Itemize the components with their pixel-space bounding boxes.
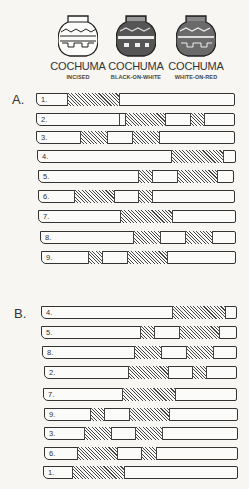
seriation-bar: 9. bbox=[44, 408, 238, 421]
hatched-segment bbox=[132, 131, 160, 144]
hatched-segment bbox=[122, 388, 176, 401]
pot-title-white-on-red: COCHUMA bbox=[161, 60, 231, 72]
seriation-bar: 5. bbox=[41, 326, 237, 339]
bar-number: 5. bbox=[43, 172, 49, 181]
bar-number: 3. bbox=[41, 133, 47, 142]
bar-number: 7. bbox=[48, 390, 54, 399]
hatched-segment bbox=[127, 251, 168, 264]
hatched-segment bbox=[190, 113, 205, 126]
pot-white-on-red-icon bbox=[176, 14, 216, 58]
hatched-segment bbox=[140, 326, 155, 339]
seriation-bar: 2. bbox=[36, 113, 235, 126]
hatched-segment bbox=[185, 231, 213, 244]
hatched-segment bbox=[67, 93, 120, 106]
bar-number: 9. bbox=[46, 253, 52, 262]
bar-number: 2. bbox=[49, 368, 55, 377]
hatched-segment bbox=[125, 113, 166, 126]
bar-number: 2. bbox=[41, 115, 47, 124]
pot-subtitle-white-on-red: WHITE-ON-RED bbox=[161, 74, 231, 80]
hatched-segment bbox=[133, 231, 161, 244]
hatched-segment bbox=[192, 366, 207, 379]
seriation-bar: 3. bbox=[44, 427, 238, 440]
hatched-segment bbox=[128, 366, 169, 379]
seriation-bar: 8. bbox=[42, 346, 237, 359]
seriation-bar: 7. bbox=[43, 388, 237, 401]
hatched-segment bbox=[84, 427, 112, 440]
bar-number: 1. bbox=[48, 468, 54, 477]
hatched-segment bbox=[80, 131, 108, 144]
bar-number: 8. bbox=[47, 348, 53, 357]
bar-number: 9. bbox=[49, 410, 55, 419]
hatched-segment bbox=[72, 466, 125, 479]
bar-number: 7. bbox=[43, 212, 49, 221]
hatched-segment bbox=[138, 190, 153, 203]
hatched-segment bbox=[129, 408, 170, 421]
hatched-segment bbox=[138, 170, 153, 183]
hatched-segment bbox=[179, 326, 220, 339]
pot-incised-icon bbox=[58, 14, 98, 58]
bar-number: 6. bbox=[43, 192, 49, 201]
seriation-bar: 1. bbox=[43, 466, 238, 479]
bar-number: 4. bbox=[46, 308, 52, 317]
hatched-segment bbox=[186, 346, 214, 359]
bar-number: 4. bbox=[42, 152, 48, 161]
hatched-segment bbox=[74, 190, 115, 203]
seriation-bar: 1. bbox=[36, 93, 235, 106]
hatched-segment bbox=[90, 408, 105, 421]
hatched-segment bbox=[77, 447, 118, 460]
bar-number: 5. bbox=[46, 328, 52, 337]
bar-number: 1. bbox=[41, 95, 47, 104]
seriation-bar: 4. bbox=[37, 150, 236, 163]
seriation-bar: 7. bbox=[38, 210, 236, 223]
bar-number: 6. bbox=[49, 449, 55, 458]
hatched-segment bbox=[177, 170, 218, 183]
seriation-bar: 9. bbox=[41, 251, 236, 264]
hatched-segment bbox=[171, 150, 224, 163]
hatched-segment bbox=[135, 427, 163, 440]
seriation-bar: 2. bbox=[44, 366, 237, 379]
section-label-b: B. bbox=[14, 306, 26, 321]
seriation-bar: 4. bbox=[41, 306, 237, 319]
bar-number: 8. bbox=[45, 233, 51, 242]
hatched-segment bbox=[120, 210, 173, 223]
pot-black-on-white-icon bbox=[116, 14, 156, 58]
seriation-bar: 6. bbox=[38, 190, 235, 203]
seriation-bar: 5. bbox=[38, 170, 234, 183]
hatched-segment bbox=[88, 251, 103, 264]
bar-number: 3. bbox=[49, 429, 55, 438]
bar-divider bbox=[119, 114, 120, 125]
section-label-a: A. bbox=[12, 92, 24, 107]
hatched-segment bbox=[141, 447, 157, 460]
seriation-bar: 8. bbox=[40, 231, 236, 244]
seriation-bar: 6. bbox=[44, 447, 238, 460]
hatched-segment bbox=[172, 306, 226, 319]
seriation-bar: 3. bbox=[36, 131, 235, 144]
hatched-segment bbox=[134, 346, 162, 359]
